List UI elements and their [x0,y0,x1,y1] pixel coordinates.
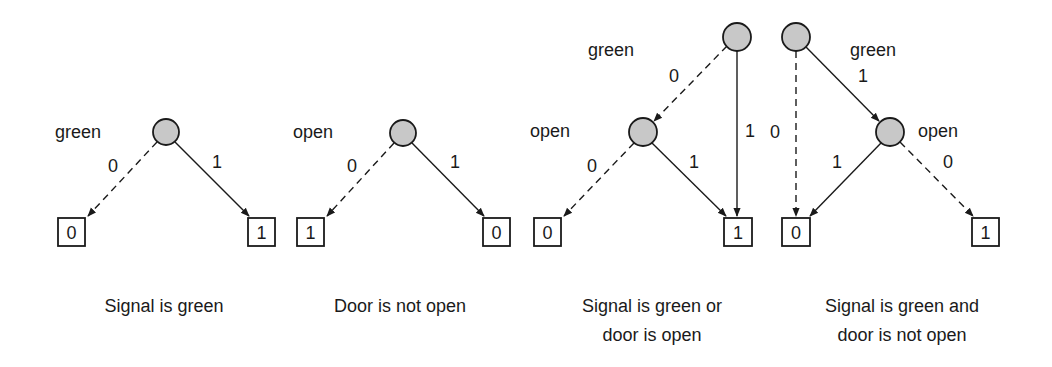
edge-label: 1 [450,152,460,172]
edge-open-0 [564,143,634,216]
caption-line-1: Signal is green or [582,296,722,316]
decision-node-green [153,119,179,145]
terminal-value: 0 [66,223,76,243]
edge-label: 1 [212,152,222,172]
edge-label: 0 [587,156,597,176]
caption-line-2: door is not open [837,325,966,345]
caption-line-2: door is open [602,325,701,345]
bdd-figure: green 0 1 0 1 Signal is green open 0 1 1… [0,0,1052,367]
terminal-value: 0 [791,223,801,243]
diagram-green-or-open: green open 0 1 0 1 0 1 Signal is green o… [530,23,755,345]
terminal-value: 1 [733,223,743,243]
terminal-value: 0 [542,223,552,243]
terminal-value: 1 [980,223,990,243]
terminal-value: 1 [256,223,266,243]
edge-0 [88,142,157,216]
edge-label: 1 [832,152,842,172]
edge-label: 1 [689,152,699,172]
diagram-green-and-not-open: green open 0 1 1 0 0 1 Signal is green a… [770,23,999,345]
decision-node-open [390,120,416,146]
node-label: green [588,40,634,60]
diagram-signal-is-green: green 0 1 0 1 Signal is green [55,119,275,316]
edge-label: 1 [745,121,755,141]
decision-node-green [723,23,751,51]
decision-node-open [629,118,657,146]
edge-0 [327,143,394,216]
terminal-value: 1 [305,223,315,243]
node-label: open [293,122,333,142]
caption: Signal is green [104,296,223,316]
edge-open-1 [810,143,881,216]
decision-node-open [876,118,904,146]
edge-green-0 [654,46,727,121]
decision-node-green [782,23,810,51]
edge-open-0 [900,142,973,216]
node-label: open [530,121,570,141]
edge-label: 1 [858,66,868,86]
edge-label: 0 [347,156,357,176]
node-label: open [918,121,958,141]
edge-label: 0 [669,66,679,86]
edge-label: 0 [770,122,780,142]
diagram-door-is-not-open: open 0 1 1 0 Door is not open [293,120,510,316]
edge-label: 0 [108,156,118,176]
edge-1 [412,143,484,216]
terminal-value: 0 [491,223,501,243]
caption-line-1: Signal is green and [825,296,979,316]
edge-label: 0 [943,152,953,172]
node-label: green [850,40,896,60]
node-label: green [55,122,101,142]
caption: Door is not open [334,296,466,316]
